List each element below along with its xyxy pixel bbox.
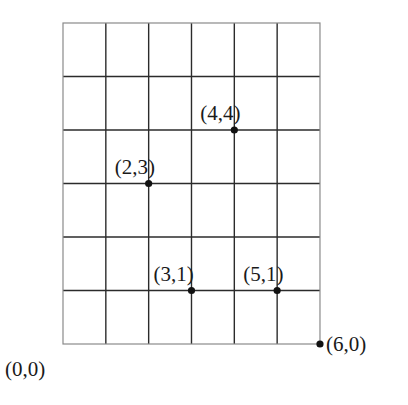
point-dot xyxy=(316,340,323,347)
point-label: (6,0) xyxy=(326,332,366,356)
point-dot xyxy=(188,287,195,294)
point-label: (3,1) xyxy=(153,262,193,286)
point-label: (5,1) xyxy=(243,262,283,286)
point-dot xyxy=(231,126,238,133)
point-dot xyxy=(145,180,152,187)
point-label: (2,3) xyxy=(115,155,155,179)
point-dot xyxy=(274,287,281,294)
coordinate-grid: (0,0)(6,0)(2,3)(4,4)(3,1)(5,1) xyxy=(0,0,408,405)
point-label: (4,4) xyxy=(200,101,240,125)
point-label: (0,0) xyxy=(5,357,45,381)
